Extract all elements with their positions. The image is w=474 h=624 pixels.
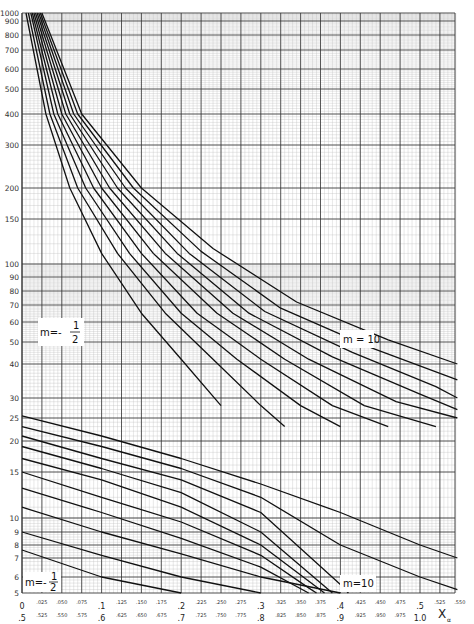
- x-tick-label: .975: [395, 612, 406, 618]
- y-tick-label: 20: [9, 437, 19, 446]
- grid-minor: [22, 13, 456, 593]
- x-tick-label: .3: [257, 602, 265, 611]
- y-tick-label: 700: [5, 46, 20, 55]
- x-tick-label: .225: [196, 599, 207, 605]
- x-tick-label: .325: [275, 599, 286, 605]
- svg-text:m=-: m=-: [40, 327, 62, 338]
- curve: [34, 13, 436, 427]
- svg-text:2: 2: [50, 582, 56, 593]
- x-tick-label: .175: [156, 599, 167, 605]
- y-tick-label: 70: [9, 301, 19, 310]
- svg-text:m=-: m=-: [25, 577, 47, 588]
- x-tick-label: .050: [56, 599, 67, 605]
- x-tick-label: .025: [36, 599, 47, 605]
- y-tick-label: 80: [9, 287, 19, 296]
- svg-text:1: 1: [73, 320, 79, 331]
- y-tick-label: 15: [9, 468, 19, 477]
- y-tick-label: 200: [5, 184, 20, 193]
- svg-text:1: 1: [51, 571, 57, 582]
- label-upper-left: m=- 1 2: [38, 318, 84, 346]
- x-tick-label: .250: [215, 599, 226, 605]
- x-tick-label: .4: [337, 602, 345, 611]
- x-tick-label: .8: [257, 614, 265, 623]
- label-upper-right: m = 10: [340, 330, 380, 348]
- x-tick-label: .075: [76, 599, 87, 605]
- chart: 1000900800700600500400300200150100908070…: [0, 0, 474, 624]
- y-tick-label: 30: [9, 394, 19, 403]
- svg-text:m = 10: m = 10: [343, 334, 380, 345]
- x-tick-label: .775: [235, 612, 246, 618]
- svg-text:2: 2: [72, 334, 78, 345]
- y-tick-label: 400: [5, 110, 20, 119]
- x-tick-label: .650: [136, 612, 147, 618]
- x-tick-label: .525: [434, 599, 445, 605]
- y-tick-label: 7: [14, 554, 19, 563]
- svg-text:α: α: [447, 616, 451, 623]
- y-tick-label: 900: [5, 17, 20, 26]
- svg-text:X: X: [438, 607, 446, 621]
- y-tick-label: 40: [9, 360, 19, 369]
- x-tick-label: .875: [315, 612, 326, 618]
- x-tick-label: .275: [235, 599, 246, 605]
- x-tick-label: .150: [136, 599, 147, 605]
- grid-major: [22, 13, 455, 593]
- x-tick-label: .850: [295, 612, 306, 618]
- x-tick-label: .675: [156, 612, 167, 618]
- x-tick-label: .525: [36, 612, 47, 618]
- x-tick-label: .475: [395, 599, 406, 605]
- y-tick-label: 25: [9, 414, 19, 423]
- x-tick-label: .725: [196, 612, 207, 618]
- curve: [36, 13, 458, 418]
- y-tick-label: 10: [9, 514, 19, 523]
- x-tick-label: .375: [315, 599, 326, 605]
- x-tick-label: .125: [116, 599, 127, 605]
- x-tick-label: 0: [19, 602, 24, 611]
- svg-text:m=10: m=10: [343, 578, 374, 589]
- x-tick-label: .5: [18, 614, 26, 623]
- x-tick-label: .925: [355, 612, 366, 618]
- x-tick-label: .825: [275, 612, 286, 618]
- y-tick-label: 6: [14, 573, 19, 582]
- x-tick-label: .5: [416, 602, 424, 611]
- x-tick-label: .450: [375, 599, 386, 605]
- x-tick-label: .750: [215, 612, 226, 618]
- x-tick-label: .350: [295, 599, 306, 605]
- x-tick-label: .7: [177, 614, 185, 623]
- y-tick-label: 60: [9, 318, 19, 327]
- y-tick-label: 800: [5, 31, 20, 40]
- x-axis-title: X α: [438, 607, 451, 623]
- x-tick-label: .2: [177, 602, 185, 611]
- curve: [26, 13, 221, 406]
- y-tick-label: 600: [5, 65, 20, 74]
- y-tick-label: 5: [14, 589, 19, 598]
- x-tick-label: 1.0: [414, 614, 427, 623]
- y-tick-label: 300: [5, 141, 20, 150]
- x-tick-label: .575: [76, 612, 87, 618]
- x-tick-label: .6: [98, 614, 106, 623]
- y-tick-label: 100: [5, 260, 20, 269]
- x-axis-labels: 0.1.2.3.4.5.025.050.075.125.150.175.225.…: [18, 599, 465, 623]
- y-axis-labels: 1000900800700600500400300200150100908070…: [0, 9, 19, 598]
- x-tick-label: .9: [337, 614, 345, 623]
- x-tick-label: .950: [375, 612, 386, 618]
- x-tick-label: .550: [454, 599, 465, 605]
- label-lower-right: m=10: [340, 575, 376, 592]
- y-tick-label: 90: [9, 273, 19, 282]
- y-tick-label: 9: [14, 528, 19, 537]
- label-lower-left: m=- 1 2: [23, 571, 61, 593]
- x-tick-label: .550: [56, 612, 67, 618]
- y-tick-label: 50: [9, 338, 19, 347]
- x-tick-label: .425: [355, 599, 366, 605]
- y-tick-label: 150: [5, 215, 20, 224]
- y-tick-label: 500: [5, 85, 20, 94]
- y-tick-label: 8: [14, 541, 19, 550]
- x-tick-label: .1: [98, 602, 106, 611]
- x-tick-label: .625: [116, 612, 127, 618]
